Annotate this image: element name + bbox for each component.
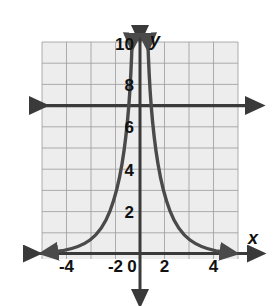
y-tick-label-2: 2 — [125, 203, 134, 222]
x-tick-label-0: 0 — [127, 257, 136, 276]
y-tick-label-8: 8 — [125, 76, 134, 95]
coordinate-plane: 10 8 6 4 2 -4 -2 0 2 4 y x — [0, 0, 276, 306]
graph-figure: 10 8 6 4 2 -4 -2 0 2 4 y x — [0, 0, 276, 306]
x-tick-label-2: 2 — [160, 257, 169, 276]
x-tick-label-4: 4 — [209, 257, 219, 276]
y-tick-label-10: 10 — [115, 35, 134, 54]
y-tick-label-4: 4 — [125, 161, 135, 180]
x-tick-label-minus-4: -4 — [59, 257, 75, 276]
x-axis-label: x — [247, 228, 259, 248]
y-axis-label: y — [149, 30, 161, 50]
y-tick-label-6: 6 — [125, 118, 134, 137]
x-tick-label-minus-2: -2 — [108, 257, 123, 276]
